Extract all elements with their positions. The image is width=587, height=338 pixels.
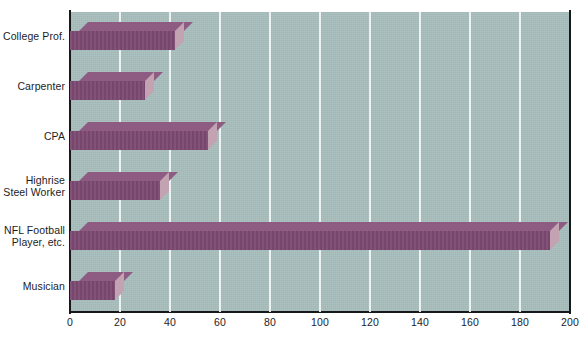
category-label-line: Musician — [0, 280, 65, 292]
bar-4 — [70, 172, 169, 200]
gridline-80 — [269, 12, 271, 312]
gridline-120 — [369, 12, 371, 312]
gridline-180 — [519, 12, 521, 312]
bar-top-face — [79, 272, 133, 281]
y-axis-line — [69, 10, 71, 314]
x-tick-label-120: 120 — [350, 316, 390, 328]
bar-2 — [70, 72, 154, 100]
category-label-line: CPA — [0, 130, 65, 142]
bar-front-face — [70, 231, 550, 250]
gridline-160 — [469, 12, 471, 312]
bar-3 — [70, 122, 217, 150]
chart-canvas: College Prof.CarpenterCPAHighriseSteel W… — [0, 0, 587, 338]
bar-front-face — [70, 181, 160, 200]
category-label-line: Highrise — [0, 174, 65, 186]
gridline-100 — [319, 12, 321, 312]
gridline-60 — [219, 12, 221, 312]
bar-front-face — [70, 131, 208, 150]
category-label-5: NFL FootballPlayer, etc. — [0, 224, 65, 248]
bar-1 — [70, 22, 184, 50]
bar-front-face — [70, 281, 115, 300]
bar-front-face — [70, 31, 175, 50]
x-tick-label-40: 40 — [150, 316, 190, 328]
gridline-140 — [419, 12, 421, 312]
gridline-40 — [169, 12, 171, 312]
x-tick-label-60: 60 — [200, 316, 240, 328]
category-label-6: Musician — [0, 280, 65, 292]
category-label-line: Player, etc. — [0, 236, 65, 248]
x-tick-label-80: 80 — [250, 316, 290, 328]
category-label-line: Carpenter — [0, 80, 65, 92]
bar-5 — [70, 222, 559, 250]
category-label-4: HighriseSteel Worker — [0, 174, 65, 198]
x-tick-label-20: 20 — [100, 316, 140, 328]
plot-right-border — [569, 10, 571, 314]
category-label-line: Steel Worker — [0, 186, 65, 198]
x-tick-label-160: 160 — [450, 316, 490, 328]
category-label-3: CPA — [0, 130, 65, 142]
bar-top-face — [79, 222, 568, 231]
x-tick-label-140: 140 — [400, 316, 440, 328]
x-tick-label-180: 180 — [500, 316, 540, 328]
x-tick-label-0: 0 — [50, 316, 90, 328]
x-tick-label-200: 200 — [550, 316, 587, 328]
category-label-1: College Prof. — [0, 30, 65, 42]
category-label-2: Carpenter — [0, 80, 65, 92]
category-label-line: NFL Football — [0, 224, 65, 236]
bar-front-face — [70, 81, 145, 100]
category-label-line: College Prof. — [0, 30, 65, 42]
gridline-20 — [119, 12, 121, 312]
x-tick-label-100: 100 — [300, 316, 340, 328]
bar-6 — [70, 272, 124, 300]
bar-top-face — [79, 122, 226, 131]
